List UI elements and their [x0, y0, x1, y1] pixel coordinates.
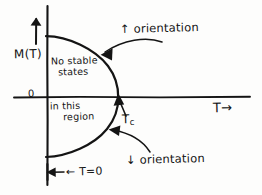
in-this-region-annotation: in this region [50, 100, 95, 122]
in-this-region-line2: region [63, 111, 94, 122]
down-orientation-pointer-arrow-icon [109, 125, 150, 152]
horizontal-axis [14, 97, 250, 98]
down-orientation-label: ↓ orientation [126, 152, 205, 166]
tc-subscript: c [129, 117, 134, 127]
up-orientation-pointer-arrow-icon [101, 39, 162, 60]
no-stable-states-annotation: No stable states [51, 55, 98, 77]
no-stable-states-line1: No stable [51, 54, 98, 66]
in-this-region-line1: in this [50, 100, 81, 112]
t-equals-zero-label: ← T=0 [66, 166, 103, 178]
no-stable-states-line2: states [58, 66, 98, 77]
up-orientation-label: ↑ orientation [120, 21, 199, 35]
tc-letter: T [122, 112, 130, 126]
t-axis-label: T→ [213, 101, 233, 115]
phase-diagram-figure: M(T) 0 T→ Tc ↑ orientation ↓ orientation… [0, 0, 262, 195]
m-axis-label: M(T) [14, 48, 42, 61]
m-axis-direction-arrow-icon [31, 17, 42, 44]
origin-label: 0 [28, 89, 35, 100]
critical-temperature-label: Tc [122, 113, 135, 128]
t-axis-arrow-icon: → [221, 100, 232, 115]
t-zero-pointer-arrow-icon [46, 167, 64, 177]
